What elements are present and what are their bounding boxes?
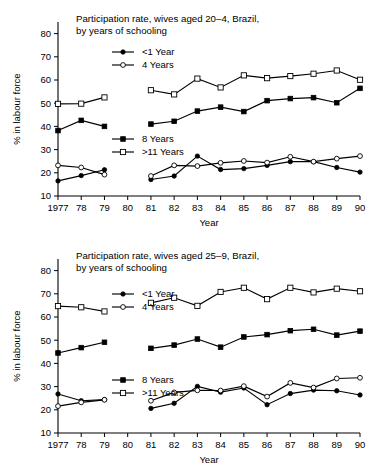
data-point	[334, 100, 339, 105]
data-point	[358, 393, 362, 397]
legend-label: 4 Years	[142, 301, 174, 312]
data-point	[79, 101, 84, 106]
legend-marker	[121, 137, 126, 142]
chart-subtitle: by years of schooling	[76, 25, 167, 36]
data-point	[79, 165, 84, 170]
x-tick-label: 85	[239, 202, 250, 213]
data-point	[102, 124, 107, 129]
data-point	[195, 154, 199, 158]
data-point	[288, 285, 293, 290]
data-point	[55, 101, 60, 106]
x-tick-label: 79	[99, 202, 110, 213]
data-point	[56, 351, 61, 356]
data-point	[265, 394, 270, 399]
legend-label: 4 Years	[142, 59, 174, 70]
data-point	[218, 85, 223, 90]
x-tick-label: 90	[355, 439, 366, 450]
x-tick-label: 78	[76, 202, 87, 213]
x-tick-label: 87	[285, 439, 296, 450]
x-tick-label: 88	[308, 439, 319, 450]
y-tick-label: 60	[40, 311, 51, 322]
data-point	[172, 174, 176, 178]
data-point	[56, 404, 61, 409]
data-point	[218, 289, 223, 294]
legend-marker	[121, 305, 126, 310]
y-tick-label: 10	[40, 190, 51, 201]
y-tick-label: 60	[40, 74, 51, 85]
x-tick-label: 84	[215, 439, 226, 450]
data-point	[218, 167, 222, 171]
data-point	[288, 73, 293, 78]
figure-stack: 1020304050607080197778798081828384858687…	[0, 0, 373, 474]
data-point	[79, 173, 83, 177]
y-tick-label: 20	[40, 167, 51, 178]
data-point	[334, 286, 339, 291]
data-point	[79, 305, 84, 310]
data-point	[264, 297, 269, 302]
x-tick-label: 87	[285, 202, 296, 213]
series-line	[151, 156, 360, 176]
data-point	[149, 122, 154, 127]
series--11-years	[55, 285, 362, 314]
series-8-years	[56, 327, 363, 355]
x-tick-label: 78	[76, 439, 87, 450]
y-axis-title: % in labour force	[11, 73, 22, 144]
x-tick-label: 88	[308, 202, 319, 213]
y-tick-label: 40	[40, 358, 51, 369]
data-point	[195, 109, 200, 114]
data-point	[172, 401, 176, 405]
data-point	[288, 154, 293, 159]
series--11-years	[55, 68, 362, 107]
x-tick-label: 89	[331, 439, 342, 450]
data-point	[195, 164, 200, 169]
data-point	[218, 345, 223, 350]
legend-entry: 4 Years	[112, 301, 174, 312]
series-line	[151, 288, 360, 306]
data-point	[149, 346, 154, 351]
data-point	[334, 68, 339, 73]
legend-entry: 8 Years	[112, 374, 174, 385]
data-point	[265, 332, 270, 337]
data-point	[265, 402, 269, 406]
data-point	[218, 160, 223, 165]
data-point	[358, 154, 363, 159]
x-tick-label: 90	[355, 202, 366, 213]
series-4-years	[56, 154, 363, 179]
data-point	[172, 163, 177, 168]
x-tick-label: 83	[192, 202, 203, 213]
data-point	[334, 376, 339, 381]
data-point	[335, 165, 339, 169]
y-tick-label: 70	[40, 51, 51, 62]
y-tick-label: 50	[40, 335, 51, 346]
data-point	[148, 88, 153, 93]
y-tick-label: 30	[40, 381, 51, 392]
data-point	[264, 76, 269, 81]
data-point	[358, 329, 363, 334]
legend-marker	[121, 292, 125, 296]
legend-entry: <1 Year	[112, 288, 175, 299]
data-point	[195, 303, 200, 308]
data-point	[102, 309, 107, 314]
data-point	[79, 118, 84, 123]
x-axis-title: Year	[199, 217, 218, 228]
data-point	[172, 92, 177, 97]
data-point	[55, 303, 60, 308]
y-tick-label: 50	[40, 98, 51, 109]
y-tick-label: 80	[40, 265, 51, 276]
data-point	[311, 159, 316, 164]
data-point	[241, 159, 246, 164]
data-point	[357, 77, 362, 82]
y-tick-label: 70	[40, 288, 51, 299]
x-tick-label: 1977	[47, 439, 68, 450]
data-point	[102, 397, 107, 402]
data-point	[149, 406, 153, 410]
data-point	[56, 392, 60, 396]
y-tick-label: 20	[40, 404, 51, 415]
y-tick-label: 80	[40, 28, 51, 39]
series-line	[151, 70, 360, 94]
x-tick-label: 80	[122, 439, 133, 450]
data-point	[334, 333, 339, 338]
data-point	[311, 290, 316, 295]
series-4-years	[56, 375, 363, 408]
legend-entry: <1 Year	[112, 46, 175, 57]
